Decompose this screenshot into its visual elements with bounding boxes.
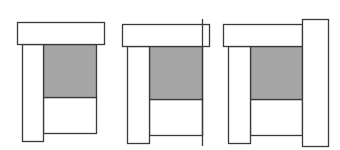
top-bar bbox=[224, 25, 303, 47]
lower-panel bbox=[150, 100, 203, 136]
figure-2 bbox=[123, 19, 210, 146]
shaded-block bbox=[44, 45, 97, 98]
left-post bbox=[229, 47, 251, 144]
left-post bbox=[128, 47, 150, 144]
lower-panel bbox=[44, 98, 97, 134]
top-bar bbox=[123, 25, 210, 47]
figure-1 bbox=[18, 23, 105, 142]
shaded-block bbox=[150, 47, 203, 100]
figure-3 bbox=[224, 20, 329, 147]
lower-panel bbox=[251, 100, 303, 136]
top-bar bbox=[18, 23, 105, 45]
left-post bbox=[23, 45, 44, 142]
shaded-block bbox=[251, 47, 303, 100]
diagram-canvas bbox=[0, 0, 340, 150]
right-post bbox=[303, 20, 329, 147]
